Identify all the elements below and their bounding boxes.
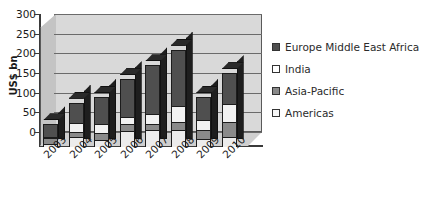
bar-segment[interactable]	[94, 97, 109, 125]
y-axis-tick-mark	[34, 112, 39, 113]
legend-item-label: Europe Middle East Africa	[285, 42, 419, 53]
gridline	[54, 34, 262, 35]
y-axis-tick-label: 50	[10, 107, 36, 117]
legend-item[interactable]: Asia-Pacific	[272, 80, 428, 102]
y-axis-tick-mark	[34, 73, 39, 74]
bar-segment[interactable]	[222, 73, 237, 104]
legend-swatch-icon	[272, 109, 280, 117]
bar-segment[interactable]	[171, 50, 186, 107]
bar-side-face	[186, 32, 193, 139]
bar-segment[interactable]	[222, 104, 237, 124]
y-axis-tick-label: 250	[10, 29, 36, 39]
plot-area	[40, 14, 262, 146]
bar-side-face	[160, 47, 167, 139]
legend-swatch-icon	[272, 43, 280, 51]
y-axis-tick-label: 100	[10, 88, 36, 98]
legend-swatch-icon	[272, 87, 280, 95]
bar-segment[interactable]	[145, 65, 160, 115]
bar-segment[interactable]	[196, 97, 211, 121]
chart-container: US$ bn 050100150200250300 20032004200520…	[0, 0, 428, 204]
legend-item[interactable]: Europe Middle East Africa	[272, 36, 428, 58]
y-axis-tick-mark	[34, 53, 39, 54]
legend-item-label: Asia-Pacific	[285, 86, 344, 97]
legend-item-label: Americas	[285, 108, 334, 119]
y-axis-tick-labels: 050100150200250300	[8, 0, 36, 204]
y-axis-tick-label: 0	[10, 127, 36, 137]
gridline	[54, 14, 262, 15]
x-axis-tick-labels: 20032004200520062007200820092010	[40, 146, 270, 204]
chart-legend: Europe Middle East AfricaIndiaAsia-Pacif…	[272, 36, 428, 124]
bar-segment[interactable]	[171, 106, 186, 123]
y-axis-tick-label: 150	[10, 68, 36, 78]
gridline	[54, 53, 262, 54]
y-axis-tick-label: 200	[10, 48, 36, 58]
y-axis-tick-mark	[34, 93, 39, 94]
bar-stack	[171, 50, 186, 146]
y-axis-tick-label: 300	[10, 9, 36, 19]
bar-stack	[222, 73, 237, 146]
y-axis-tick-mark	[34, 34, 39, 35]
y-axis-tick-mark	[34, 14, 39, 15]
y-axis-tick-mark	[34, 132, 39, 133]
legend-item[interactable]: Americas	[272, 102, 428, 124]
bar-segment[interactable]	[120, 79, 135, 118]
legend-item-label: India	[285, 64, 311, 75]
legend-swatch-icon	[272, 65, 280, 73]
legend-item[interactable]: India	[272, 58, 428, 80]
bar-segment[interactable]	[69, 103, 84, 125]
bar-stack	[145, 65, 160, 146]
